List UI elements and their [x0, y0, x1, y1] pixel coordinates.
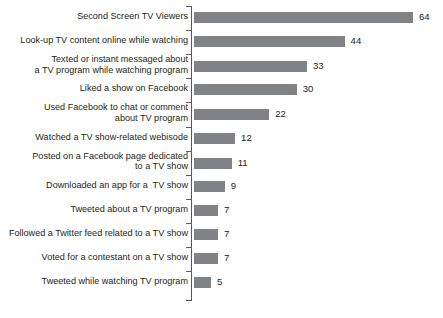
bar-row: Look-up TV content online while watching…: [0, 30, 443, 54]
bar-row: Tweeted while watching TV program5: [0, 271, 443, 295]
bar-value-label: 12: [241, 132, 252, 143]
bar: [194, 253, 218, 264]
bar: [194, 277, 211, 288]
category-tick: [186, 247, 192, 248]
bar-value-label: 5: [217, 276, 222, 287]
bar: [194, 229, 218, 240]
category-label: Tweeted while watching TV program: [0, 276, 188, 287]
category-tick: [186, 6, 192, 7]
category-label: Second Screen TV Viewers: [0, 11, 188, 22]
category-label: Look-up TV content online while watching: [0, 35, 188, 46]
bar: [194, 205, 218, 216]
bar-value-label: 11: [238, 157, 248, 168]
bar: [194, 84, 297, 95]
bar-chart: Second Screen TV Viewers64Look-up TV con…: [0, 0, 443, 318]
bar-row: Liked a show on Facebook30: [0, 78, 443, 102]
axis-bottom-tick: [186, 300, 192, 301]
category-label: Downloaded an app for a TV show: [0, 180, 188, 191]
bar-row: Second Screen TV Viewers64: [0, 6, 443, 30]
category-tick: [186, 127, 192, 128]
category-tick: [186, 271, 192, 272]
bar-row: Posted on a Facebook page dedicated to a…: [0, 151, 443, 175]
category-tick: [186, 199, 192, 200]
bar-row: Watched a TV show-related webisode12: [0, 127, 443, 151]
bar-row: Used Facebook to chat or comment about T…: [0, 102, 443, 126]
bar: [194, 12, 413, 23]
category-tick: [186, 78, 192, 79]
bar: [194, 109, 269, 120]
category-label: Liked a show on Facebook: [0, 83, 188, 94]
category-label: Posted on a Facebook page dedicated to a…: [0, 151, 188, 172]
category-tick: [186, 175, 192, 176]
bar: [194, 181, 225, 192]
category-label: Used Facebook to chat or comment about T…: [0, 102, 188, 123]
category-label: Followed a Twitter feed related to a TV …: [0, 228, 188, 239]
bar-value-label: 7: [224, 228, 229, 239]
bar-value-label: 44: [351, 35, 362, 46]
category-label: Texted or instant messaged about a TV pr…: [0, 54, 188, 75]
bar-value-label: 7: [224, 252, 229, 263]
bar-value-label: 64: [419, 11, 430, 22]
bar: [194, 36, 345, 47]
bar-value-label: 33: [313, 60, 324, 71]
bar: [194, 61, 307, 72]
category-tick: [186, 223, 192, 224]
category-label: Voted for a contestant on a TV show: [0, 252, 188, 263]
category-tick: [186, 30, 192, 31]
category-label: Tweeted about a TV program: [0, 204, 188, 215]
plot-area: Second Screen TV Viewers64Look-up TV con…: [0, 0, 443, 302]
bar-row: Downloaded an app for a TV show9: [0, 175, 443, 199]
bar: [194, 158, 232, 169]
bar: [194, 133, 235, 144]
bar-value-label: 7: [224, 204, 229, 215]
bar-row: Followed a Twitter feed related to a TV …: [0, 223, 443, 247]
bar-value-label: 22: [275, 108, 286, 119]
bar-value-label: 30: [303, 83, 314, 94]
bar-value-label: 9: [231, 180, 236, 191]
bar-row: Texted or instant messaged about a TV pr…: [0, 54, 443, 78]
category-label: Watched a TV show-related webisode: [0, 132, 188, 143]
bar-row: Tweeted about a TV program7: [0, 199, 443, 223]
bar-row: Voted for a contestant on a TV show7: [0, 247, 443, 271]
